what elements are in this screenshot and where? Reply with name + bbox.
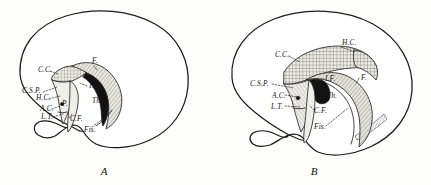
- figure-a: C.C. F. I.F. Th. C.S.P. H.C. A.C. L.T. C…: [0, 0, 215, 185]
- label-f-b: F.: [360, 73, 367, 82]
- label-fis-a: Fis.: [83, 125, 96, 134]
- label-fis-b: Fis.: [313, 122, 326, 131]
- label-csp-b: C.S.P.: [250, 79, 269, 88]
- label-lt-a: L.T.: [40, 112, 53, 121]
- label-th-a: Th.: [92, 96, 102, 105]
- figure-caption-a: A: [100, 165, 108, 177]
- label-cc-a: C.C.: [38, 65, 52, 74]
- label-p-a: P.: [61, 99, 68, 108]
- figure-caption-b: B: [311, 165, 318, 177]
- label-th-b: Th.: [327, 91, 337, 100]
- label-if-a: I.F.: [88, 81, 99, 90]
- label-lt-b: L.T.: [270, 102, 283, 111]
- figure-b: H.C. C.C. C.S.P. I.F. F. A.C. Th. L.T. C…: [214, 0, 431, 185]
- label-cc-b: C.C.: [275, 50, 289, 59]
- label-ac-b: A.C.: [271, 91, 286, 100]
- illustration-plate: C.C. F. I.F. Th. C.S.P. H.C. A.C. L.T. C…: [0, 0, 431, 185]
- anterior-commissure-b: [296, 96, 300, 100]
- label-hc-a: H.C.: [35, 93, 51, 102]
- label-cf-b: C.F.: [314, 106, 327, 115]
- label-f-a: F.: [91, 56, 98, 65]
- label-hc-b: H.C.: [341, 38, 357, 47]
- label-cf-a: C.F.: [70, 114, 83, 123]
- label-if-b: I.F.: [324, 74, 335, 83]
